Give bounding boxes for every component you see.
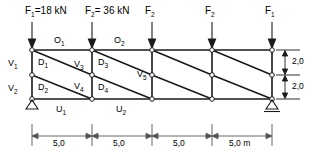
load-arrow-F2-mid2 bbox=[148, 22, 155, 48]
horizontal-dimension-3: 5,0 bbox=[173, 139, 185, 148]
force-label-F2-mid3: F2 bbox=[205, 6, 215, 19]
node-bottom-4 bbox=[210, 97, 215, 102]
horizontal-dimension-4: 5,0 m bbox=[229, 139, 250, 148]
member-diagonal-4a bbox=[212, 50, 272, 75]
node-mid-2 bbox=[90, 73, 95, 78]
node-top-1 bbox=[30, 48, 35, 53]
truss-geometry bbox=[0, 0, 331, 164]
member-label-V3: V3 bbox=[74, 60, 84, 71]
node-mid-1 bbox=[30, 73, 35, 78]
member-label-D4: D4 bbox=[98, 83, 108, 94]
load-arrow-F2-mid3 bbox=[208, 22, 215, 48]
node-mid-4 bbox=[210, 73, 215, 78]
truss-diagram: F1=18 kN F2= 36 kN F2 F2 F1 O1 O2 U1 U2 … bbox=[0, 0, 331, 164]
node-top-3 bbox=[150, 48, 155, 53]
member-label-V5: V5 bbox=[137, 70, 147, 81]
member-diagonal-4b bbox=[212, 75, 272, 99]
force-label-F1-left: F1=18 kN bbox=[25, 6, 67, 19]
force-label-F2-mid1: F2= 36 kN bbox=[85, 6, 129, 19]
member-label-O2: O2 bbox=[114, 36, 125, 47]
node-mid-3 bbox=[150, 73, 155, 78]
node-mid-5 bbox=[270, 73, 275, 78]
load-arrow-F1-left bbox=[28, 22, 35, 48]
member-diagonal-3a bbox=[152, 50, 212, 75]
member-label-D2: D2 bbox=[38, 83, 48, 94]
member-label-D1: D1 bbox=[38, 58, 48, 69]
member-label-U1: U1 bbox=[56, 105, 66, 116]
node-bottom-3 bbox=[150, 97, 155, 102]
member-label-V1: V1 bbox=[8, 59, 18, 70]
load-arrow-F2-mid1 bbox=[88, 22, 95, 48]
load-arrow-F1-right bbox=[268, 22, 275, 48]
member-label-U2: U2 bbox=[116, 105, 126, 116]
node-top-5 bbox=[270, 48, 275, 53]
node-bottom-2 bbox=[90, 97, 95, 102]
member-label-V2: V2 bbox=[8, 84, 18, 95]
member-label-O1: O1 bbox=[54, 36, 65, 47]
member-diagonal-3b bbox=[152, 75, 212, 99]
force-label-F1-right: F1 bbox=[265, 6, 275, 19]
horizontal-dimension-2: 5,0 bbox=[113, 139, 125, 148]
member-label-V4: V4 bbox=[74, 82, 84, 93]
member-label-D3: D3 bbox=[98, 58, 108, 69]
node-top-2 bbox=[90, 48, 95, 53]
force-label-F2-mid2: F2 bbox=[145, 6, 155, 19]
horizontal-dimension-1: 5,0 bbox=[53, 139, 65, 148]
node-top-4 bbox=[210, 48, 215, 53]
vertical-dimension-lower: 2,0 bbox=[292, 82, 304, 91]
load-arrows bbox=[28, 22, 275, 48]
vertical-dimension-upper: 2,0 bbox=[292, 57, 304, 66]
